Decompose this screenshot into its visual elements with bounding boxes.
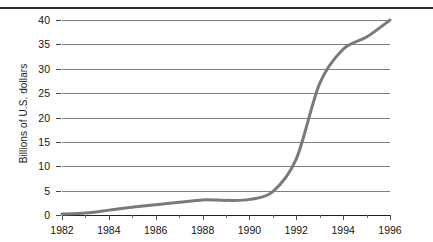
x-tick-minor bbox=[226, 215, 227, 218]
y-tick-label: 20 bbox=[24, 113, 50, 123]
y-tick-label: 40 bbox=[24, 15, 50, 25]
x-tick-mark bbox=[62, 215, 63, 220]
y-tick-mark bbox=[56, 215, 61, 216]
x-tick-mark bbox=[156, 215, 157, 220]
x-tick-label: 1984 bbox=[89, 224, 129, 236]
y-tick-mark bbox=[56, 93, 61, 94]
x-tick-label: 1982 bbox=[42, 224, 82, 236]
x-tick-minor bbox=[179, 215, 180, 218]
chart-figure: Billions of U.S. dollars 051015202530354… bbox=[0, 0, 433, 242]
x-tick-label: 1996 bbox=[370, 224, 410, 236]
y-tick-label: 35 bbox=[24, 39, 50, 49]
x-tick-mark bbox=[249, 215, 250, 220]
y-tick-mark bbox=[56, 69, 61, 70]
x-tick-minor bbox=[132, 215, 133, 218]
y-tick-mark bbox=[56, 191, 61, 192]
y-tick-label: 10 bbox=[24, 161, 50, 171]
x-tick-minor bbox=[367, 215, 368, 218]
x-tick-label: 1986 bbox=[136, 224, 176, 236]
x-tick-label: 1992 bbox=[276, 224, 316, 236]
y-tick-mark bbox=[56, 166, 61, 167]
x-tick-mark bbox=[343, 215, 344, 220]
x-tick-label: 1990 bbox=[229, 224, 269, 236]
y-tick-label: 0 bbox=[24, 210, 50, 220]
y-tick-label: 25 bbox=[24, 88, 50, 98]
data-series-line bbox=[62, 20, 390, 215]
x-tick-minor bbox=[85, 215, 86, 218]
y-tick-mark bbox=[56, 142, 61, 143]
x-tick-mark bbox=[109, 215, 110, 220]
y-tick-label: 5 bbox=[24, 186, 50, 196]
y-tick-label: 30 bbox=[24, 64, 50, 74]
y-tick-label: 15 bbox=[24, 137, 50, 147]
x-tick-mark bbox=[203, 215, 204, 220]
top-divider-rule bbox=[0, 7, 433, 9]
plot-area: 0510152025303540 19821984198619881990199… bbox=[62, 20, 390, 215]
y-tick-mark bbox=[56, 44, 61, 45]
y-tick-mark bbox=[56, 118, 61, 119]
x-tick-label: 1994 bbox=[323, 224, 363, 236]
y-tick-mark bbox=[56, 20, 61, 21]
x-tick-mark bbox=[296, 215, 297, 220]
x-tick-label: 1988 bbox=[183, 224, 223, 236]
series-path bbox=[62, 20, 390, 214]
x-tick-minor bbox=[320, 215, 321, 218]
x-tick-mark bbox=[390, 215, 391, 220]
x-tick-minor bbox=[273, 215, 274, 218]
